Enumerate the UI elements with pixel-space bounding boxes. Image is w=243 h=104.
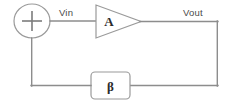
feedback-symbol: β <box>107 79 114 94</box>
vin-label: Vin <box>59 7 73 18</box>
amplifier-block <box>96 5 141 38</box>
diagram-canvas: Vin Vout A β <box>0 0 243 104</box>
amplifier-symbol: A <box>104 14 114 29</box>
vout-label: Vout <box>183 7 203 18</box>
feedback-loop-diagram: Vin Vout A β <box>0 0 243 104</box>
